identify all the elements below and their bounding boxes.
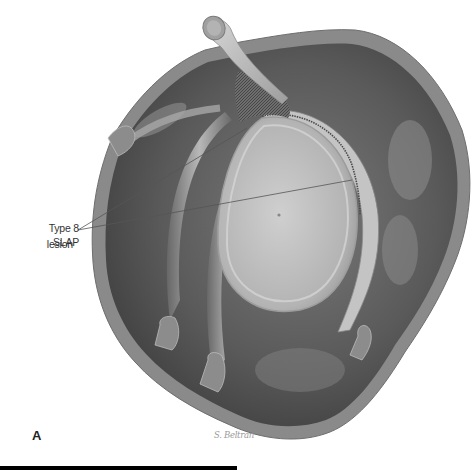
artist-signature: S. Beltran: [214, 430, 254, 440]
bottom-rule: [0, 466, 237, 470]
slap-lesion-illustration: Type 8 SLAP lesion A S. Beltran: [0, 0, 472, 470]
callout-label-line2: lesion: [23, 237, 73, 251]
panel-label: A: [32, 428, 41, 443]
bare-spot: [277, 213, 280, 216]
